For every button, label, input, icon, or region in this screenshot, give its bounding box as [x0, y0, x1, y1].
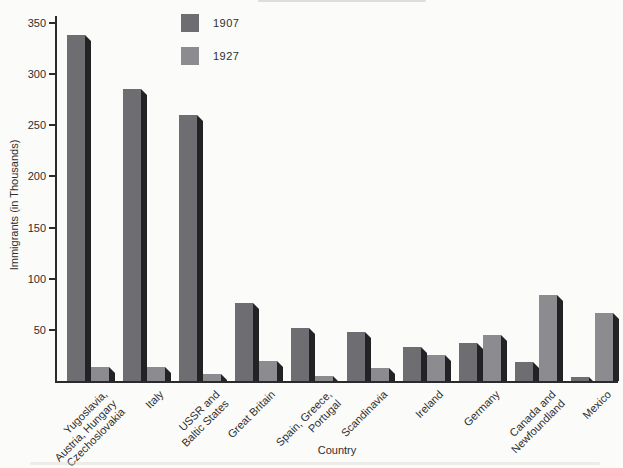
y-tick-mark	[49, 175, 55, 177]
bar-shadow-1907	[309, 328, 315, 381]
x-category-label: Mexico	[580, 388, 613, 421]
bar-shadow-1927	[557, 295, 563, 381]
legend-label-1927: 1927	[213, 50, 239, 62]
legend-item-1927: 1927	[181, 47, 239, 65]
x-category-label: USSR and Baltic States	[170, 388, 231, 449]
chart-canvas: Immigrants (in Thousands) Yugoslavia, Au…	[0, 0, 623, 468]
y-tick-mark	[49, 73, 55, 75]
bar-1907	[347, 332, 365, 381]
y-axis-title: Immigrants (in Thousands)	[8, 125, 20, 285]
bar-1907	[291, 328, 309, 381]
x-axis-line	[55, 381, 618, 383]
bar-1907	[459, 343, 477, 381]
bar-shadow-1927	[445, 355, 451, 381]
bar-1927	[315, 376, 333, 381]
x-category-label: Scandinavia	[339, 388, 390, 439]
y-tick-label: 50	[12, 324, 46, 336]
y-tick-mark	[49, 227, 55, 229]
y-tick-label: 100	[12, 273, 46, 285]
y-tick-mark	[49, 22, 55, 24]
x-category-label: Ireland	[413, 388, 446, 421]
bar-1927	[595, 313, 613, 381]
y-axis-line	[55, 16, 57, 382]
bar-1927	[427, 355, 445, 381]
x-category-label: Yugoslavia, Austria, Hungary Czechoslova…	[43, 388, 127, 468]
bar-shadow-1927	[221, 374, 227, 381]
bar-shadow-1927	[613, 313, 619, 381]
bar-1907	[403, 347, 421, 381]
bar-1927	[203, 374, 221, 381]
bar-1907	[515, 362, 533, 381]
bar-1927	[259, 361, 277, 381]
legend: 1907 1927	[181, 14, 239, 80]
y-tick-label: 150	[12, 222, 46, 234]
y-tick-mark	[49, 124, 55, 126]
legend-label-1907: 1907	[213, 17, 239, 29]
y-tick-label: 250	[12, 119, 46, 131]
y-tick-label: 300	[12, 68, 46, 80]
bar-shadow-1927	[109, 367, 115, 381]
bar-1927	[539, 295, 557, 381]
bar-shadow-1907	[197, 115, 203, 381]
x-category-label: Canada and Newfoundland	[499, 388, 566, 455]
y-tick-label: 200	[12, 170, 46, 182]
bar-shadow-1907	[141, 89, 147, 381]
x-axis-title: Country	[287, 444, 387, 456]
bar-1927	[371, 368, 389, 381]
y-tick-mark	[49, 329, 55, 331]
x-category-label: Great Britain	[225, 388, 278, 441]
bar-1907	[67, 35, 85, 381]
bar-shadow-1927	[277, 361, 283, 381]
bar-shadow-1927	[165, 367, 171, 381]
legend-swatch-1907	[181, 14, 199, 32]
bar-1927	[483, 335, 501, 381]
bar-1907	[179, 115, 197, 381]
scan-artifact-bottom	[30, 462, 600, 465]
bar-1907	[571, 377, 589, 381]
x-category-label: Italy	[143, 388, 166, 411]
legend-item-1907: 1907	[181, 14, 239, 32]
bar-shadow-1927	[389, 368, 395, 381]
bar-1927	[91, 367, 109, 381]
bar-1907	[235, 303, 253, 381]
y-tick-mark	[49, 278, 55, 280]
bar-shadow-1907	[85, 35, 91, 381]
legend-swatch-1927	[181, 47, 199, 65]
bar-1907	[123, 89, 141, 381]
bar-shadow-1927	[501, 335, 507, 381]
bar-1927	[147, 367, 165, 381]
x-category-label: Germany	[461, 388, 502, 429]
scan-artifact-top	[258, 0, 426, 2]
y-tick-label: 350	[12, 17, 46, 29]
